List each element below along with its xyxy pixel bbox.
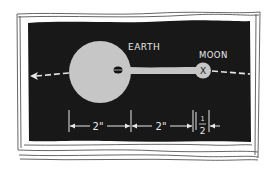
dimension-label-moon-numerator: 1 bbox=[200, 115, 204, 123]
earth-label: EARTH bbox=[128, 42, 160, 52]
dimension-label-moon-denominator: 2 bbox=[200, 126, 206, 136]
earth-moon-diagram: X EARTH MOON 2" 2" 1 2 bbox=[0, 0, 275, 170]
dimension-label-earth-moon: 2" bbox=[156, 121, 167, 132]
earth-moon-bar bbox=[127, 67, 197, 74]
dimension-label-earth-radius: 2" bbox=[93, 121, 104, 132]
moon-label: MOON bbox=[199, 50, 228, 60]
moon-marker: X bbox=[200, 66, 206, 76]
night-sky-panel bbox=[28, 20, 251, 142]
